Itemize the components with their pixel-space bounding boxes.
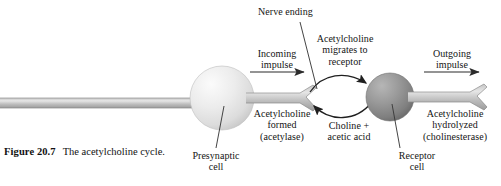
label-nerve-ending: Nerve ending — [258, 6, 344, 17]
figure-acetylcholine-cycle: Nerve ending Incoming impulse Acetylchol… — [0, 0, 501, 186]
label-acetylcholine-formed: Acetylcholine formed (acetylase) — [243, 108, 321, 142]
figure-caption-text: The acetylcholine cycle. — [63, 146, 165, 157]
label-acetylcholine-migrates: Acetylcholine migrates to receptor — [304, 33, 386, 67]
label-outgoing-impulse: Outgoing impulse — [421, 48, 483, 71]
label-choline-acetic-acid: Choline + acetic acid — [316, 120, 382, 143]
label-receptor-cell: Receptor cell — [389, 150, 445, 173]
label-incoming-impulse: Incoming impulse — [246, 48, 308, 71]
receptor-cell-sphere — [366, 73, 414, 121]
label-acetylcholine-hydrolyzed: Acetylcholine hydrolyzed (cholinesterase… — [409, 108, 501, 142]
return-arrow-path — [314, 102, 372, 118]
axon-from-receptor — [408, 84, 487, 110]
migrate-arrow-path — [310, 75, 366, 92]
figure-caption-number: Figure 20.7 — [4, 146, 56, 157]
axon-left-trunk — [0, 98, 196, 108]
figure-caption: Figure 20.7The acetylcholine cycle. — [4, 146, 194, 159]
